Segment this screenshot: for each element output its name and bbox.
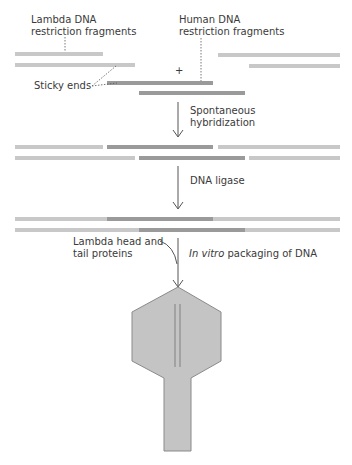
label-text: packaging of DNA [224, 248, 317, 259]
leader-lines [65, 37, 201, 86]
arrow-ligase [173, 166, 183, 209]
lambda-fragments-right [218, 53, 340, 68]
proteins-label: Lambda head and tail proteins [73, 236, 163, 260]
label-line: Human DNA [179, 14, 284, 26]
italic-text: In vitro [189, 248, 224, 259]
lambda-phage [132, 287, 221, 451]
human-fragment [107, 81, 245, 95]
label-line: tail proteins [73, 248, 163, 260]
label-line: hybridization [190, 117, 255, 129]
plus-sign: + [175, 65, 183, 77]
ligase-label: DNA ligase [190, 175, 245, 187]
ligated-dna [15, 217, 340, 232]
arrow-packaging [160, 238, 183, 287]
packaging-label: In vitro packaging of DNA [189, 248, 317, 260]
sticky-ends-label: Sticky ends [34, 80, 91, 92]
arrow-hybridization [173, 102, 183, 137]
lambda-fragments-label: Lambda DNA restriction fragments [31, 14, 136, 38]
lambda-fragments-left [15, 52, 135, 67]
hybridization-label: Spontaneous hybridization [190, 105, 255, 129]
label-line: restriction fragments [31, 26, 136, 38]
label-line: Lambda DNA [31, 14, 136, 26]
label-line: Lambda head and [73, 236, 163, 248]
label-line: restriction fragments [179, 26, 284, 38]
label-line: Spontaneous [190, 105, 255, 117]
human-fragments-label: Human DNA restriction fragments [179, 14, 284, 38]
hybridized-dna [15, 145, 340, 160]
